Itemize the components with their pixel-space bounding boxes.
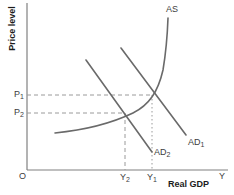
price-guide-lines [27,95,152,113]
ad-as-diagram: Price level Real GDP O Y P1 P2 Y2 Y1 AS … [0,0,234,195]
y1-tick-label: Y1 [147,173,157,182]
p1-tick-label: P1 [14,90,24,99]
ad2-curve-label: AD2 [154,148,170,157]
x-axis-end-label: Y [219,172,225,181]
as-curve-label: AS [166,5,178,14]
ad2-curve-label-text: AD [154,147,167,157]
p2-tick-sub: 2 [20,111,24,118]
x-axis-title: Real GDP [168,180,209,189]
ad1-curve-label-text: AD [188,137,201,147]
ad2-curve-label-sub: 2 [167,151,171,158]
p1-tick-sub: 1 [20,93,24,100]
y1-tick-sub: 1 [153,176,157,183]
ad1-curve-label: AD1 [188,138,204,147]
diagram-canvas [0,0,234,195]
origin-label: O [19,172,26,181]
y-axis-title: Price level [8,1,17,57]
p2-tick-label: P2 [14,108,24,117]
y2-tick-sub: 2 [126,176,130,183]
y2-tick-label: Y2 [120,173,130,182]
as-curve [55,18,168,133]
as-curve-label-text: AS [166,4,178,14]
ad2-curve [86,60,152,152]
ad1-curve-label-sub: 1 [201,141,205,148]
